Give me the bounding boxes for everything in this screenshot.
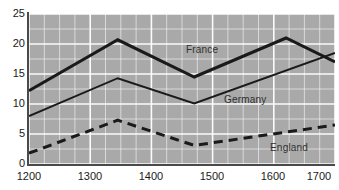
y-tick-5: 5 [1,128,25,139]
series-layer [29,14,335,164]
x-tick-1700: 1700 [299,170,339,182]
y-axis-line [27,12,29,166]
x-tick-1600: 1600 [253,170,293,182]
series-line-england [29,120,335,153]
plot-area [29,14,335,164]
y-tick-15: 15 [1,68,25,79]
y-tick-20: 20 [1,38,25,49]
x-tick-1500: 1500 [192,170,232,182]
series-line-france [29,38,335,91]
line-chart: 25 20 15 10 5 0 1200 1300 1400 1500 1600… [0,0,339,190]
x-tick-1300: 1300 [70,170,110,182]
y-axis-tick-labels: 25 20 15 10 5 0 [0,0,25,190]
series-line-germany [29,53,335,116]
x-tick-1400: 1400 [131,170,171,182]
x-tick-1200: 1200 [9,170,49,182]
y-tick-0: 0 [1,158,25,169]
y-tick-10: 10 [1,98,25,109]
series-svg [29,14,335,164]
x-axis-line [27,164,335,166]
y-tick-25: 25 [1,8,25,19]
